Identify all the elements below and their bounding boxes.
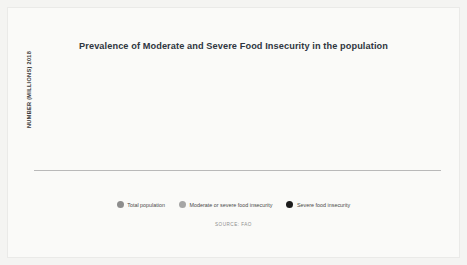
y-axis-label: NUMBER (MILLIONS) 2018 xyxy=(26,48,32,128)
legend-label-total-population: Total population xyxy=(127,202,165,208)
plot-area: Prevalence of Moderate and Severe Food I… xyxy=(8,8,459,257)
legend-item-moderate-or-severe[interactable]: Moderate or severe food insecurity xyxy=(179,201,273,208)
legend-swatch-total-population xyxy=(117,201,124,208)
legend-label-severe: Severe food insecurity xyxy=(297,202,350,208)
legend: Total population Moderate or severe food… xyxy=(8,201,459,208)
legend-item-severe[interactable]: Severe food insecurity xyxy=(286,201,350,208)
baseline-axis xyxy=(34,170,441,171)
page-title: Prevalence of Moderate and Severe Food I… xyxy=(8,41,459,51)
legend-item-total-population[interactable]: Total population xyxy=(117,201,165,208)
source-note: SOURCE: FAO xyxy=(8,222,459,227)
legend-swatch-severe xyxy=(286,201,293,208)
legend-swatch-moderate-or-severe xyxy=(179,201,186,208)
legend-label-moderate-or-severe: Moderate or severe food insecurity xyxy=(189,202,272,208)
chart-canvas: Prevalence of Moderate and Severe Food I… xyxy=(8,8,459,257)
chart-screenshot: Prevalence of Moderate and Severe Food I… xyxy=(0,0,467,265)
